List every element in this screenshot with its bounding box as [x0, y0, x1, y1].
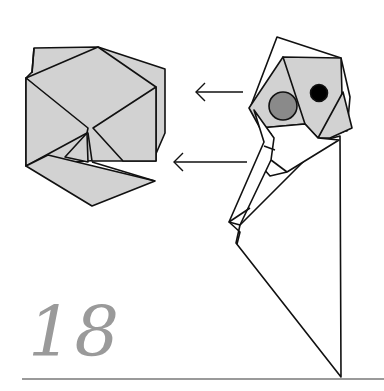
in-progress-model — [229, 37, 352, 377]
left-eye-icon — [269, 92, 297, 120]
right-eye-icon — [311, 85, 328, 102]
arrow-top — [196, 83, 243, 101]
step-number: 18 — [28, 292, 121, 372]
arrow-bottom — [174, 153, 247, 171]
result-model — [26, 47, 165, 206]
divider-rule — [22, 378, 384, 380]
